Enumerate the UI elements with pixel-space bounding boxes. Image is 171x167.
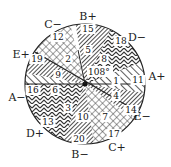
region-number: 9 <box>55 70 61 80</box>
region-number: 4 <box>113 91 119 101</box>
region-number: 10 <box>77 112 89 122</box>
region-number: 20 <box>73 134 85 144</box>
region-number: 18 <box>115 36 127 46</box>
region-number: 5 <box>85 45 91 55</box>
region-number: 2 <box>65 54 71 64</box>
region-number: 12 <box>52 32 63 42</box>
outer-label: E+ <box>12 48 29 61</box>
angle-label: 108° <box>87 66 113 77</box>
outer-label: D+ <box>26 127 44 140</box>
patterned-circle-diagram: B+C−D−E+A+A−E−D+C+B− 1234567891011121314… <box>0 0 171 167</box>
center-angle-label: 108° <box>88 67 110 77</box>
outer-label: C+ <box>108 141 126 154</box>
region-number: 6 <box>52 85 58 95</box>
region-number: 7 <box>102 112 108 122</box>
region-number: 14 <box>125 105 137 115</box>
outer-label: B+ <box>79 10 96 23</box>
outer-label: D− <box>128 31 146 44</box>
region-number: 13 <box>42 117 54 127</box>
region-number: 19 <box>31 54 43 64</box>
outer-label: A− <box>7 91 25 104</box>
outer-label: C− <box>44 18 62 31</box>
outer-label: A+ <box>147 70 165 83</box>
region-number: 3 <box>65 103 71 113</box>
region-number: 8 <box>101 54 107 64</box>
region-number: 16 <box>27 85 39 95</box>
region-number: 11 <box>132 75 143 85</box>
region-number: 1 <box>113 76 119 86</box>
outer-label: B− <box>71 148 88 161</box>
region-number: 15 <box>82 24 94 34</box>
region-number: 17 <box>108 129 120 139</box>
